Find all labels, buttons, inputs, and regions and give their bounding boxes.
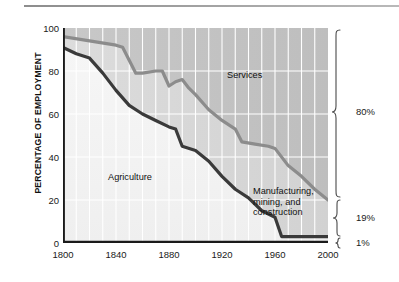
annotation-manufacturing-line-1: Manufacturing,	[253, 186, 314, 196]
chart-figure: PERCENTAGE OF EMPLOYMENT 100 80 60 40 20…	[0, 0, 399, 282]
brace-label-manufacturing: 19%	[356, 212, 375, 223]
annotation-manufacturing: Manufacturing, mining, and construction	[253, 186, 314, 218]
x-tick-label: 1960	[264, 249, 285, 260]
x-tick-label: 1920	[211, 249, 232, 260]
y-tick-label: 100	[33, 23, 59, 34]
top-divider-rule	[24, 5, 399, 7]
brace-label-agriculture: 1%	[356, 237, 370, 248]
brace-agriculture	[336, 238, 341, 248]
annotation-services: Services	[227, 70, 262, 81]
y-tick-label: 60	[33, 109, 59, 120]
y-tick-label: 40	[33, 152, 59, 163]
x-tick-label: 1880	[158, 249, 179, 260]
y-tick-label-group: 100 80 60 40 20 0	[28, 28, 59, 243]
x-tick-label: 1840	[105, 249, 126, 260]
x-tick-label: 2000	[317, 249, 338, 260]
x-tick-label-group: 1800 1840 1880 1920 1960 2000	[63, 249, 328, 267]
y-tick-label: 20	[33, 195, 59, 206]
annotation-manufacturing-line-3: construction	[253, 207, 303, 217]
brace-manufacturing	[333, 200, 340, 236]
brace-label-services: 80%	[356, 106, 375, 117]
annotation-manufacturing-line-2: mining, and	[253, 197, 301, 207]
y-tick-label: 80	[33, 66, 59, 77]
x-tick-label: 1800	[52, 249, 73, 260]
y-tick-label: 0	[33, 238, 59, 249]
annotation-agriculture: Agriculture	[108, 172, 152, 183]
plot-area: Services Agriculture Manufacturing, mini…	[63, 28, 328, 243]
brace-services	[332, 30, 340, 197]
right-brace-annotations: 80% 19% 1%	[330, 24, 399, 249]
